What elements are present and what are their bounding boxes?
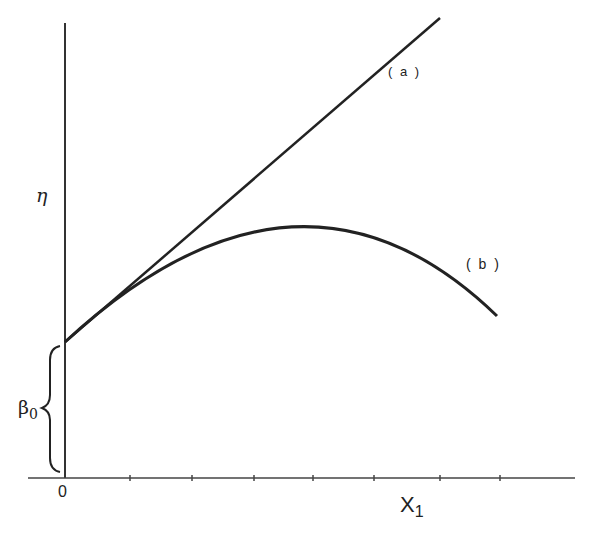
intercept-label: β0 (18, 396, 38, 422)
intercept-brace (42, 346, 60, 472)
beta-sub: 0 (29, 406, 38, 422)
chart-canvas (0, 0, 592, 533)
x-axis-label: X1 (400, 492, 424, 521)
x-label-main: X (400, 492, 415, 517)
series-b-curve (65, 227, 497, 342)
label-b: ( b ) (466, 256, 501, 272)
label-a: ( a ) (388, 64, 421, 79)
x-origin-label: 0 (58, 483, 67, 501)
series-a-line (65, 18, 440, 342)
beta-main: β (18, 396, 29, 418)
x-label-sub: 1 (415, 503, 424, 520)
y-axis-label: η (36, 184, 47, 206)
